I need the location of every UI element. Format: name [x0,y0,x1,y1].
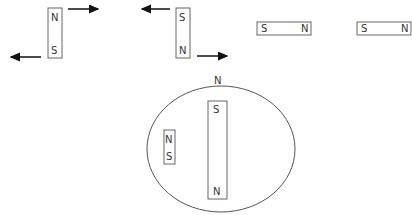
magnet-1-bottom-label: S [51,45,57,56]
magnet-1-top-label: N [51,12,58,23]
small-magnet-bottom-label: S [166,151,172,162]
magnet-4: S N [357,22,411,35]
small-magnet-top-label: N [165,134,172,145]
big-magnet [208,101,227,199]
magnet-3: S N [257,22,311,35]
magnet-2: S N [176,8,190,58]
magnet-4-right-label: N [401,23,408,34]
big-magnet-top-label: S [213,104,219,115]
magnet-3-right-label: N [301,23,308,34]
magnet-4-left-label: S [361,23,367,34]
magnet-2-bottom-label: N [179,45,186,56]
earth: N S N N S [147,75,295,212]
magnet-diagram: N S S N S N S N N S N N S [0,0,412,215]
magnet-3-left-label: S [261,23,267,34]
magnet-2-top-label: S [179,12,185,23]
big-magnet-bottom-label: N [213,186,220,197]
earth-north-pole-label: N [214,75,221,86]
magnet-1: N S [48,8,62,58]
